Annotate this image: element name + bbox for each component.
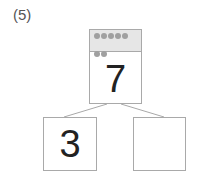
dot-icon	[115, 33, 121, 39]
dot-icon	[108, 33, 114, 39]
part-box-right-answer[interactable]	[133, 117, 186, 171]
dot-icon	[94, 33, 100, 39]
dot-band	[90, 30, 141, 52]
dot-icon	[94, 51, 100, 57]
dot-icon	[122, 33, 128, 39]
dot-icon	[101, 51, 107, 57]
whole-value: 7	[90, 58, 141, 101]
part-value-left: 3	[44, 123, 96, 166]
whole-box: 7	[89, 29, 142, 104]
dot-icon	[101, 33, 107, 39]
part-box-left: 3	[43, 117, 97, 171]
